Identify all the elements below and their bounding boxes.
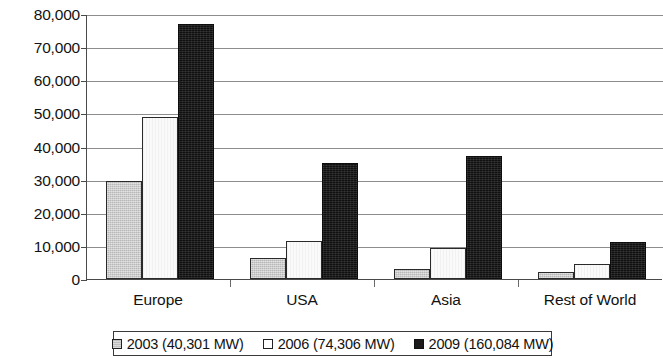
plot-wrapper: 010,00020,00030,00040,00050,00060,00070,…: [0, 0, 663, 292]
y-axis-label: 50,000: [2, 106, 80, 122]
legend-entry[interactable]: 2003 (40,301 MW): [112, 336, 244, 352]
x-tick-mark: [518, 280, 519, 287]
bar-group: [231, 15, 375, 279]
bar-group: [519, 15, 663, 279]
y-axis-label: 0: [2, 272, 80, 288]
x-axis-labels: EuropeUSAAsiaRest of World: [86, 290, 662, 314]
bar: [286, 241, 322, 279]
y-axis-label: 40,000: [2, 140, 80, 156]
bar: [142, 117, 178, 279]
bar-group: [375, 15, 519, 279]
legend-swatch-icon: [263, 339, 273, 349]
bar: [178, 24, 214, 279]
wind-capacity-bar-chart: 010,00020,00030,00040,00050,00060,00070,…: [0, 0, 663, 358]
y-axis-label: 60,000: [2, 73, 80, 89]
legend-entry[interactable]: 2006 (74,306 MW): [263, 336, 395, 352]
bar: [574, 264, 610, 279]
bar: [430, 248, 466, 279]
x-tick-mark: [374, 280, 375, 287]
x-axis-tick-marks: [86, 280, 662, 288]
bar-group: [87, 15, 231, 279]
x-axis-label-rest-of-world: Rest of World: [518, 290, 662, 310]
y-axis-label: 70,000: [2, 40, 80, 56]
x-axis-label-europe: Europe: [86, 290, 230, 310]
legend-label: 2003 (40,301 MW): [127, 336, 244, 352]
y-axis-label: 10,000: [2, 239, 80, 255]
legend-swatch-icon: [414, 339, 424, 349]
bar-groups: [87, 15, 662, 279]
bar: [250, 258, 286, 279]
bar: [610, 242, 646, 279]
bar: [466, 156, 502, 279]
bar: [538, 272, 574, 279]
x-tick-mark: [230, 280, 231, 287]
legend-label: 2009 (160,084 MW): [429, 336, 554, 352]
plot-area: [86, 15, 662, 280]
y-axis-labels: 010,00020,00030,00040,00050,00060,00070,…: [0, 15, 80, 280]
y-axis-label: 80,000: [2, 7, 80, 23]
legend-swatch-icon: [112, 339, 122, 349]
x-axis-label-usa: USA: [230, 290, 374, 310]
y-axis-label: 20,000: [2, 206, 80, 222]
bar: [394, 269, 430, 279]
legend-entry[interactable]: 2009 (160,084 MW): [414, 336, 554, 352]
legend-label: 2006 (74,306 MW): [278, 336, 395, 352]
y-axis-label: 30,000: [2, 173, 80, 189]
bar: [322, 163, 358, 279]
bar: [106, 181, 142, 279]
chart-legend: 2003 (40,301 MW)2006 (74,306 MW)2009 (16…: [113, 331, 552, 356]
x-axis-label-asia: Asia: [374, 290, 518, 310]
